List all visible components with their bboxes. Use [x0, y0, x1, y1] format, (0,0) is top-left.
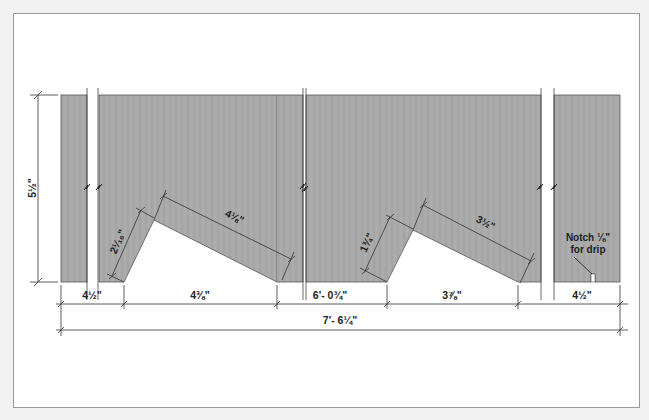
dim-cut1-run: 4⅜" — [190, 289, 210, 301]
board-left-end — [61, 95, 87, 282]
dim-overall: 7'- 6¼" — [323, 314, 357, 326]
board-drawing: 5½" 4½" 4⅜" 6'- 0¾" 3⅞" 4½" 7'- 6¼" — [0, 0, 649, 420]
overall-dimension-line — [56, 327, 628, 333]
dim-right-end: 4½" — [572, 289, 592, 301]
drip-notch — [591, 274, 595, 282]
segment-dimension-line — [56, 301, 628, 307]
height-label: 5½" — [26, 178, 38, 198]
board-section-1 — [99, 95, 277, 282]
notch-note-line2: for drip — [571, 244, 606, 255]
dim-cut2-run: 3⅞" — [442, 289, 462, 301]
board-segments — [61, 95, 620, 282]
dim-middle: 6'- 0¾" — [313, 289, 347, 301]
dim-left-end: 4½" — [82, 289, 102, 301]
board-section-2 — [306, 95, 541, 282]
notch-note-line1: Notch ⅛" — [566, 232, 610, 243]
